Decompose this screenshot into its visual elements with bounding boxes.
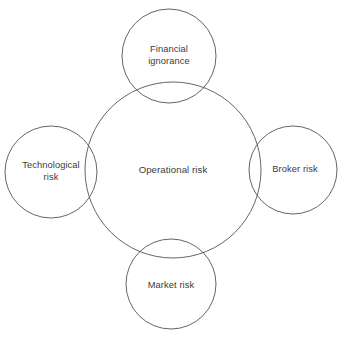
label-financial-ignorance-line-2: ignorance	[148, 56, 190, 68]
label-operational-risk: Operational risk	[139, 164, 208, 176]
label-operational-risk-line-1: Operational risk	[139, 164, 208, 176]
label-market-risk-line-1: Market risk	[148, 280, 194, 292]
label-technological-risk-line-2: risk	[22, 172, 80, 184]
label-market-risk: Market risk	[148, 280, 194, 292]
label-technological-risk: Technological risk	[22, 160, 80, 184]
label-financial-ignorance: Financial ignorance	[148, 44, 190, 68]
label-technological-risk-line-1: Technological	[22, 160, 80, 172]
label-broker-risk: Broker risk	[272, 164, 317, 176]
label-financial-ignorance-line-1: Financial	[148, 44, 190, 56]
venn-diagram: Financial ignorance Technological risk B…	[0, 0, 364, 340]
label-broker-risk-line-1: Broker risk	[272, 164, 317, 176]
